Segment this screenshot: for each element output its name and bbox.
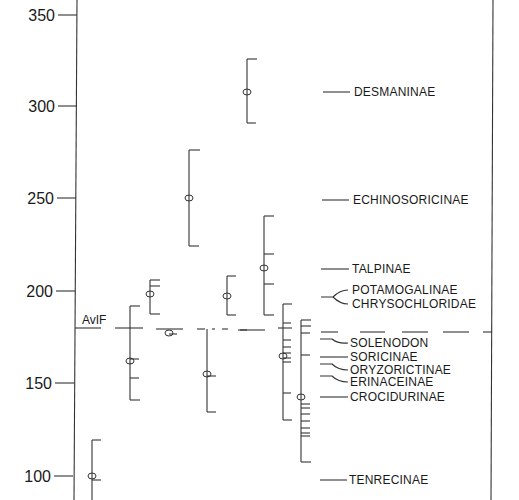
label-echinosoricinae: ECHINOSORICINAE	[353, 193, 469, 207]
right-frame	[491, 0, 493, 500]
data-point-11	[297, 320, 311, 462]
tick-label-150: 150	[25, 375, 52, 392]
y-axis	[74, 0, 77, 500]
label-crocidurinae: CROCIDURINAE	[350, 390, 445, 404]
label-soricinae: SORICINAE	[350, 350, 418, 364]
tick-label-100: 100	[24, 468, 51, 485]
data-point-9	[260, 216, 274, 315]
label-solenodon: SOLENODON	[350, 336, 428, 350]
data-point-6	[203, 329, 216, 412]
label-desmaninae: DESMANINAE	[354, 85, 435, 99]
data-point-10	[278, 304, 292, 420]
data-point-8	[243, 59, 257, 123]
tick-label-350: 350	[28, 7, 55, 24]
label-chrysochloridae: CHRYSOCHLORIDAE	[352, 297, 476, 311]
y-ticks: 350 300 250 200 150 100	[24, 7, 77, 485]
data-point-3	[146, 280, 160, 314]
group-labels: DESMANINAE ECHINOSORICINAE TALPINAE POTA…	[320, 85, 476, 487]
chart: 350 300 250 200 150 100 AvIF	[0, 0, 519, 500]
avif-label: AvIF	[82, 313, 106, 327]
tick-label-300: 300	[28, 98, 55, 115]
data-point-1	[88, 440, 101, 500]
label-potamogalinae: POTAMOGALINAE	[352, 283, 458, 297]
label-erinaceinae: ERINACEINAE	[350, 375, 434, 389]
tick-label-200: 200	[26, 283, 53, 300]
data-point-4	[165, 330, 177, 336]
data-point-5	[185, 150, 200, 246]
tick-label-250: 250	[27, 190, 54, 207]
label-tenrecinae: TENRECINAE	[349, 473, 428, 487]
data-point-7	[223, 276, 236, 315]
data-point-2	[126, 306, 140, 400]
label-talpinae: TALPINAE	[352, 262, 411, 276]
